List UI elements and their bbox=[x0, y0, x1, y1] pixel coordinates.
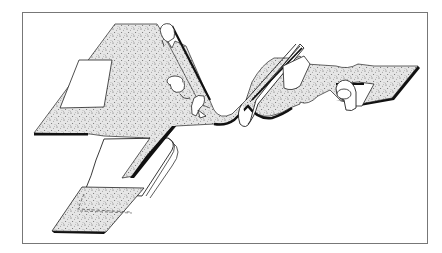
diagram-figure bbox=[0, 0, 442, 253]
window-cutout bbox=[60, 60, 112, 108]
lower-tab bbox=[52, 187, 144, 232]
sheet-shadow-left bbox=[34, 133, 88, 136]
illustration-canvas bbox=[0, 0, 442, 253]
